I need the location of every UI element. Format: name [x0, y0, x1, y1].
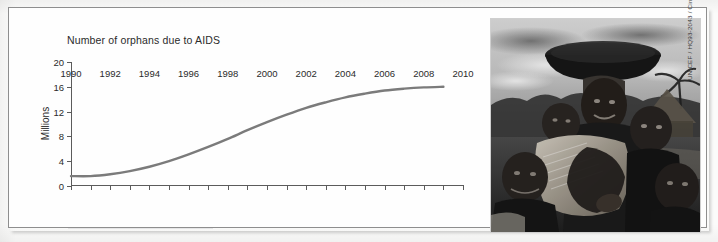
y-axis-label: Millions	[40, 89, 51, 159]
x-minor-tick	[169, 186, 170, 190]
photograph-image	[491, 19, 700, 232]
y-tick-label: 20	[53, 57, 64, 68]
y-tick-label: 8	[59, 131, 64, 142]
content-frame: Number of orphans due to AIDS Millions 0…	[8, 7, 707, 228]
x-minor-tick	[91, 186, 92, 190]
x-tick	[463, 185, 464, 190]
scanned-page: Number of orphans due to AIDS Millions 0…	[0, 0, 718, 242]
photo-credit: UNICEF / HQ93-2043 / Cindy Andrew	[686, 0, 693, 80]
y-tick-label: 16	[53, 81, 64, 92]
y-tick-label: 0	[59, 181, 64, 192]
photograph	[490, 18, 701, 233]
chart-title: Number of orphans due to AIDS	[67, 34, 220, 46]
x-minor-tick	[287, 186, 288, 190]
plot-area: 048121620 199019921994199619982000200220…	[71, 62, 463, 186]
x-minor-tick	[365, 186, 366, 190]
x-minor-tick	[130, 186, 131, 190]
y-tick-label: 12	[53, 106, 64, 117]
line-chart: Number of orphans due to AIDS Millions 0…	[23, 30, 473, 210]
x-minor-tick	[208, 186, 209, 190]
series-orphans-line	[71, 62, 463, 186]
series-path	[71, 87, 443, 176]
x-minor-tick	[404, 186, 405, 190]
photograph-block: UNICEF / HQ93-2043 / Cindy Andrew	[490, 18, 701, 233]
x-minor-tick	[247, 186, 248, 190]
x-minor-tick	[443, 186, 444, 190]
y-tick-label: 4	[59, 156, 64, 167]
x-minor-tick	[326, 186, 327, 190]
